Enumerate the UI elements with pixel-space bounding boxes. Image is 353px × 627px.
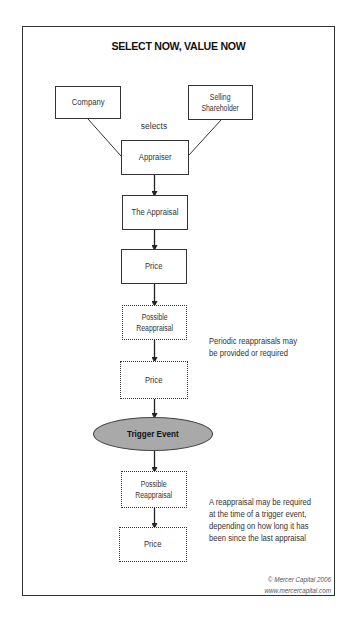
possible-reappraisal-1-line2: Reappraisal	[136, 323, 173, 334]
appraiser-label: Appraiser	[139, 152, 172, 163]
trigger-note-line2: at the time of a trigger event,	[209, 508, 311, 520]
company-to-appraiser-line	[88, 119, 121, 156]
trigger-event-ellipse: Trigger Event	[93, 417, 213, 451]
selling-shareholder-box: Selling Shareholder	[188, 85, 253, 120]
possible-reappraisal-box-1: Possible Reappraisal	[122, 305, 187, 340]
price-box-3: Price	[119, 527, 187, 562]
possible-reappraisal-2-line2: Reappraisal	[136, 490, 173, 501]
company-box: Company	[55, 86, 121, 119]
price-label-1: Price	[145, 261, 162, 272]
possible-reappraisal-1-line1: Possible	[136, 312, 173, 323]
trigger-reappraisal-note: A reappraisal may be required at the tim…	[209, 496, 322, 544]
copyright-credit: © Mercer Capital 2006 www.mercercapital.…	[257, 575, 331, 596]
price-box-1: Price	[121, 249, 187, 284]
appraiser-box: Appraiser	[121, 140, 189, 175]
the-appraisal-label: The Appraisal	[132, 207, 179, 218]
periodic-note-line2: be provided or required	[209, 347, 297, 359]
selling-shareholder-label-line2: Shareholder	[202, 103, 240, 114]
trigger-event-label: Trigger Event	[127, 429, 179, 439]
shareholder-to-appraiser-line	[189, 120, 221, 155]
selling-shareholder-label-line1: Selling	[202, 92, 240, 103]
periodic-reappraisal-note: Periodic reappraisals may be provided or…	[209, 335, 307, 359]
price-label-3: Price	[144, 539, 161, 550]
trigger-note-line4: been since the last appraisal	[209, 532, 311, 544]
company-label: Company	[72, 97, 105, 108]
copyright-text: © Mercer Capital 2006	[264, 575, 331, 586]
selects-label: selects	[120, 121, 188, 131]
the-appraisal-box: The Appraisal	[122, 195, 188, 230]
trigger-note-line3: depending on how long it has	[209, 520, 311, 532]
price-box-2: Price	[120, 361, 188, 399]
trigger-note-line1: A reappraisal may be required	[209, 496, 311, 508]
possible-reappraisal-box-2: Possible Reappraisal	[121, 471, 187, 508]
price-label-2: Price	[145, 375, 162, 386]
periodic-note-line1: Periodic reappraisals may	[209, 335, 297, 347]
credit-url: www.mercercapital.com	[264, 586, 331, 597]
possible-reappraisal-2-line1: Possible	[136, 479, 173, 490]
